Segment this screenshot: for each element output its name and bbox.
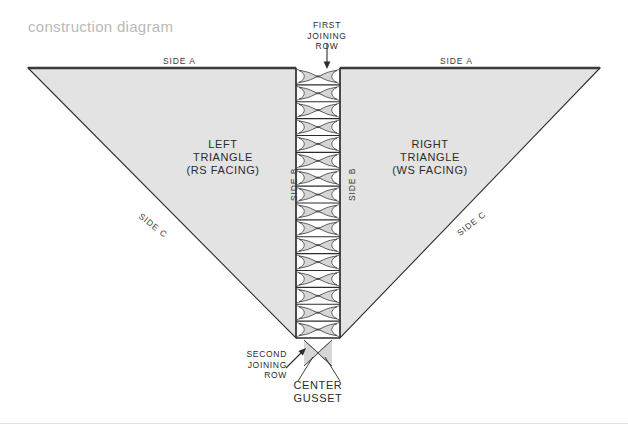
- right-triangle-shape: [340, 68, 600, 338]
- center-cable-column: [296, 70, 340, 339]
- side-a-right-label: SIDE A: [440, 56, 473, 66]
- diagram-page: construction diagram: [0, 0, 628, 424]
- side-a-left-label: SIDE A: [163, 56, 196, 66]
- left-triangle-line3: (RS FACING): [163, 164, 283, 177]
- center-gusset-line1: CENTER: [278, 379, 358, 392]
- right-triangle-label: RIGHT TRIANGLE (WS FACING): [370, 138, 490, 177]
- second-joining-row-line2: JOINING: [225, 360, 287, 371]
- second-joining-row-line1: SECOND: [225, 349, 287, 360]
- left-triangle-label: LEFT TRIANGLE (RS FACING): [163, 138, 283, 177]
- first-joining-row-label: FIRST JOINING ROW: [288, 20, 366, 52]
- construction-diagram-svg: [0, 0, 628, 424]
- second-joining-row-arrow: [286, 348, 306, 368]
- left-triangle-shape: [28, 68, 296, 338]
- right-triangle-line3: (WS FACING): [370, 164, 490, 177]
- first-joining-row-line3: ROW: [288, 41, 366, 52]
- first-joining-row-line1: FIRST: [288, 20, 366, 31]
- right-triangle-line1: RIGHT: [370, 138, 490, 151]
- center-gusset-label: CENTER GUSSET: [278, 379, 358, 405]
- side-b-right-label: SIDE B: [347, 168, 357, 201]
- right-triangle-line2: TRIANGLE: [370, 151, 490, 164]
- second-joining-row-label: SECOND JOINING ROW: [225, 349, 287, 381]
- left-triangle-line1: LEFT: [163, 138, 283, 151]
- first-joining-row-line2: JOINING: [288, 31, 366, 42]
- left-triangle-line2: TRIANGLE: [163, 151, 283, 164]
- center-gusset-line2: GUSSET: [278, 392, 358, 405]
- side-b-left-label: SIDE B: [289, 168, 299, 201]
